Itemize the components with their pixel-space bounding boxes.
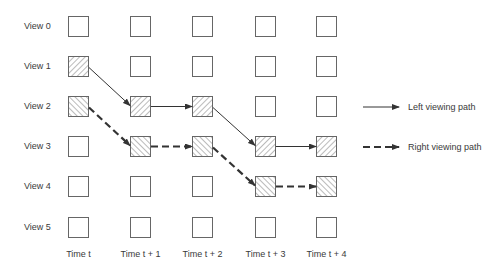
frame-box bbox=[256, 57, 276, 77]
right-path-arrow bbox=[89, 108, 130, 146]
time-label: Time t + 1 bbox=[121, 249, 161, 259]
viewing-path-diagram: View 0View 1View 2View 3View 4View 5 Tim… bbox=[0, 0, 503, 273]
view-label: View 1 bbox=[24, 61, 51, 71]
view-label: View 2 bbox=[24, 101, 51, 111]
right-path-frame bbox=[256, 177, 276, 197]
frame-box bbox=[131, 57, 151, 77]
frame-box bbox=[193, 57, 213, 77]
right-path-frame bbox=[317, 177, 337, 197]
frame-grid bbox=[68, 16, 337, 238]
frame-box bbox=[131, 17, 151, 37]
left-path-frame bbox=[69, 57, 89, 77]
right-path-frame bbox=[193, 137, 213, 157]
right-path-frame bbox=[69, 97, 89, 117]
legend: Left viewing path Right viewing path bbox=[363, 102, 482, 152]
view-label: View 5 bbox=[24, 222, 51, 232]
left-path-frame bbox=[256, 137, 276, 157]
left-path-frame bbox=[193, 97, 213, 117]
frame-box bbox=[131, 218, 151, 238]
frame-box bbox=[69, 218, 89, 238]
time-label: Time t + 2 bbox=[183, 249, 223, 259]
right-path-frame bbox=[131, 137, 151, 157]
view-label: View 4 bbox=[24, 181, 51, 191]
right-path-legend-label: Right viewing path bbox=[408, 142, 482, 152]
frame-box bbox=[256, 218, 276, 238]
view-labels: View 0View 1View 2View 3View 4View 5 bbox=[24, 21, 51, 232]
frame-box bbox=[69, 137, 89, 157]
viewing-paths bbox=[89, 68, 316, 187]
time-label: Time t + 3 bbox=[246, 249, 286, 259]
view-label: View 3 bbox=[24, 141, 51, 151]
frame-box bbox=[193, 177, 213, 197]
frame-box bbox=[131, 177, 151, 197]
left-path-arrow bbox=[89, 68, 130, 106]
frame-box bbox=[193, 218, 213, 238]
view-label: View 0 bbox=[24, 21, 51, 31]
time-label: Time t + 4 bbox=[307, 249, 347, 259]
frame-box bbox=[317, 97, 337, 117]
time-labels: Time tTime t + 1Time t + 2Time t + 3Time… bbox=[66, 249, 346, 259]
frame-box bbox=[69, 177, 89, 197]
left-path-frame bbox=[317, 137, 337, 157]
right-path-arrow bbox=[213, 148, 255, 186]
frame-box bbox=[317, 57, 337, 77]
frame-box bbox=[69, 17, 89, 37]
frame-box bbox=[317, 17, 337, 37]
frame-box bbox=[256, 17, 276, 37]
time-label: Time t bbox=[66, 249, 91, 259]
left-path-legend-label: Left viewing path bbox=[408, 102, 476, 112]
left-path-arrow bbox=[213, 108, 255, 146]
left-path-frame bbox=[131, 97, 151, 117]
frame-box bbox=[193, 17, 213, 37]
frame-box bbox=[317, 218, 337, 238]
frame-box bbox=[256, 97, 276, 117]
